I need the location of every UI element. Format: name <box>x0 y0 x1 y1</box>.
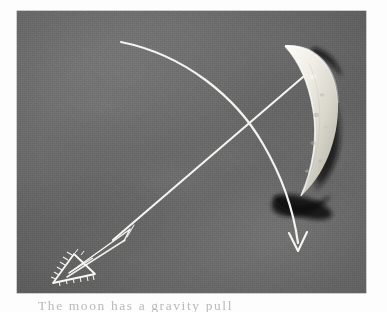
arrowhead-apex-ticks <box>75 249 84 255</box>
trajectory-arc <box>121 42 298 243</box>
photo-artwork <box>17 11 366 293</box>
photograph-plate <box>17 11 366 293</box>
triangle-arrowhead-group <box>51 249 95 286</box>
shaft-double-line-lower <box>67 240 125 277</box>
crescent-shadow-blob <box>271 189 334 225</box>
straight-arrow-shaft-group <box>67 77 303 277</box>
figure-caption-text: The moon has a gravity pull <box>38 299 338 312</box>
figure-caption: The moon has a gravity pull <box>38 299 338 312</box>
shaft-main-line <box>113 77 303 240</box>
crescent-moon-shape-group <box>285 46 338 196</box>
page-canvas: The moon has a gravity pull <box>0 0 387 312</box>
curved-trajectory-arrow-group <box>121 42 307 251</box>
